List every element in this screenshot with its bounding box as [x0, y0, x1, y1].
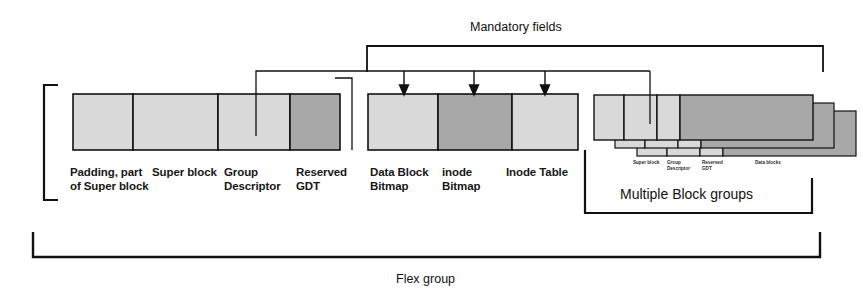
group1-block-1-label: Super block	[152, 166, 217, 180]
group3-block-1-label: Group Descriptor	[667, 160, 690, 172]
group1-block-3-label: Reserved GDT	[296, 166, 347, 193]
caption-flex-group: Flex group	[396, 272, 455, 287]
group1-block-2-rect	[218, 94, 290, 150]
bracket-group1	[44, 85, 58, 200]
group3-block-1-rect	[624, 95, 657, 140]
group3-block-0-rect	[594, 95, 624, 140]
group1-blocks	[73, 94, 340, 150]
group3-block-3-label: Data blocks	[755, 160, 781, 166]
group2-block-0-label: Data Block Bitmap	[370, 166, 428, 193]
group1-block-2-label: Group Descriptor	[224, 166, 281, 193]
group2-block-2-label: Inode Table	[506, 166, 568, 180]
group3-block-3-rect	[680, 95, 813, 140]
group1-block-1-rect	[133, 94, 218, 150]
group2-block-1-rect	[438, 94, 512, 150]
caption-mandatory-fields: Mandatory fields	[470, 20, 562, 35]
caption-multiple-block-groups: Multiple Block groups	[620, 186, 753, 203]
group2-block-1-label: inode Bitmap	[442, 166, 480, 193]
ext4-flex-group-diagram: Mandatory fields Padding, part of Super …	[0, 0, 863, 294]
diagram-vector-layer	[0, 0, 863, 294]
mandatory-field-arrows	[400, 71, 550, 95]
group3-stack-layer-1	[594, 95, 813, 140]
group2-block-2-rect	[512, 94, 578, 150]
group3-block-0-label: Super block	[633, 160, 659, 166]
group3-block-2-label: Reserved GDT	[702, 160, 723, 172]
group1-block-3-rect	[290, 94, 340, 150]
bracket-flex-group	[33, 232, 820, 257]
group2-block-0-rect	[368, 94, 438, 150]
bracket-mandatory-fields	[367, 46, 823, 72]
group3-block-2-rect	[657, 95, 680, 140]
group1-block-0-rect	[73, 94, 133, 150]
group1-block-0-label: Padding, part of Super block	[70, 166, 148, 193]
group2-blocks	[368, 94, 578, 150]
